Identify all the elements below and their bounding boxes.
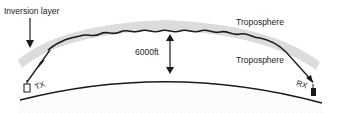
height-arrow-up-icon xyxy=(166,34,174,41)
rx-antenna-icon xyxy=(311,84,316,96)
tx-antenna-icon xyxy=(24,80,30,92)
earth-ground xyxy=(20,82,322,113)
diagram-graphic xyxy=(0,0,340,113)
troposphere-upper-label: Troposphere xyxy=(236,18,284,27)
inversion-pointer-arrow-icon xyxy=(26,40,34,48)
troposphere-lower-label: Troposphere xyxy=(236,56,284,65)
height-arrow-down-icon xyxy=(166,67,174,74)
inversion-layer-label: Inversion layer xyxy=(4,7,59,16)
height-label: 6000ft xyxy=(135,48,159,57)
tropospheric-ducting-diagram: Inversion layer Troposphere 6000ft Tropo… xyxy=(0,0,340,113)
